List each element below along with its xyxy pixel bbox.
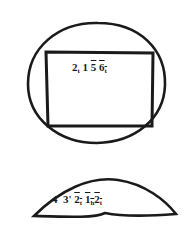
label-part: 4 <box>52 193 58 205</box>
label-subscript: t <box>78 67 80 75</box>
label-subscript: t <box>105 67 107 75</box>
top-figure-label: 2t 1 5 6t <box>72 61 107 75</box>
bottom-figure-label: 4 3' 2t 1h2t <box>52 193 102 207</box>
label-subscript: t <box>100 199 102 207</box>
label-part: 3' <box>63 193 72 205</box>
label-part-overlined: 5 <box>91 61 97 73</box>
label-subscript: t <box>80 199 82 207</box>
label-part: 1 <box>83 61 89 73</box>
